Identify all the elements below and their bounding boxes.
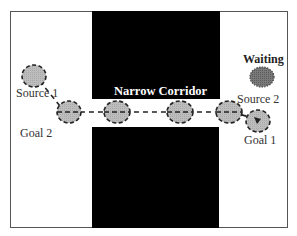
- source2-label: Source 2: [237, 93, 279, 105]
- waiting-label: Waiting: [243, 53, 284, 65]
- corridor-label: Narrow Corridor: [114, 85, 207, 97]
- path-robot-3: [167, 101, 193, 123]
- path-robot-2: [104, 101, 130, 123]
- source1-robot: [22, 65, 46, 87]
- goal1-robot: [246, 110, 270, 132]
- diagram-canvas: Narrow Corridor Waiting Source 1 Source …: [0, 0, 297, 236]
- path-robot-1: [57, 101, 81, 123]
- waiting-robot: [250, 67, 274, 87]
- goal1-label: Goal 1: [244, 134, 276, 146]
- source1-label: Source 1: [16, 87, 58, 99]
- path-overlay: [0, 0, 297, 236]
- goal2-label: Goal 2: [20, 127, 52, 139]
